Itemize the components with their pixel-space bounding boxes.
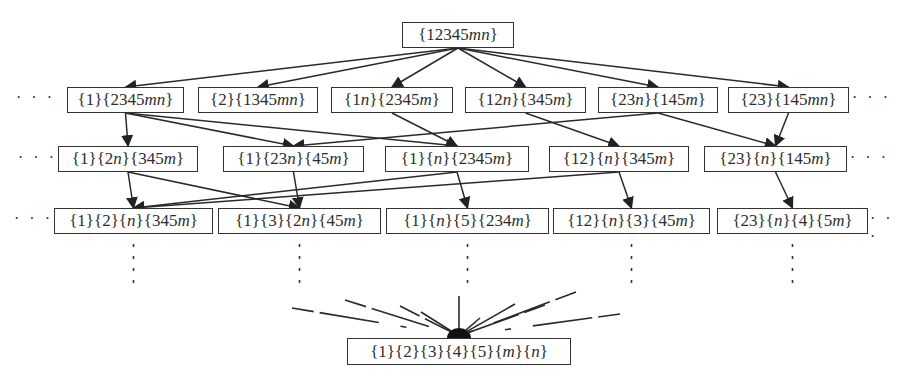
- vertical-dot: [792, 256, 794, 259]
- ellipsis-right-row2: · · ·: [850, 149, 889, 167]
- vertical-dot: [133, 268, 135, 271]
- vertical-dot: [467, 256, 469, 259]
- fan-edge: [345, 300, 457, 335]
- node-label: {1}{2345mn}: [78, 90, 174, 110]
- vertical-dot: [133, 256, 135, 259]
- edge-arrow: [619, 172, 632, 208]
- ellipsis-left-row2: · · ·: [18, 149, 57, 167]
- node-row3: {1}{2}{n}{345m}: [54, 208, 213, 234]
- vertical-dot: [631, 256, 633, 259]
- vertical-dot: [299, 256, 301, 259]
- node-label: {12345mn}: [418, 25, 498, 45]
- vertical-dot: [133, 244, 135, 247]
- ellipsis-left-row3: · · ·: [14, 210, 53, 228]
- node-row3: {23}{n}{4}{5m}: [717, 208, 868, 234]
- node-label: {1}{n}{2345m}: [401, 149, 513, 169]
- edge-arrow: [134, 172, 458, 208]
- node-row2: {1}{n}{2345m}: [385, 146, 529, 172]
- node-label: {1}{2}{n}{345m}: [69, 211, 198, 231]
- vertical-dot: [299, 244, 301, 247]
- node-label: {1n}{2345m}: [344, 90, 440, 110]
- vertical-dot: [467, 268, 469, 271]
- node-label: {12}{n}{3}{45m}: [567, 211, 696, 231]
- edge-arrow: [658, 113, 776, 146]
- node-label: {1}{2n}{345m}: [72, 149, 184, 169]
- edge-arrow: [126, 113, 458, 146]
- vertical-dot: [299, 280, 301, 283]
- node-label: {12n}{345m}: [478, 90, 574, 110]
- node-row2: {1}{23n}{45m}: [223, 146, 364, 172]
- node-label: {23}{n}{145m}: [719, 149, 831, 169]
- edge-arrow: [458, 48, 789, 87]
- node-row1: {2}{1345mn}: [198, 87, 318, 113]
- node-label: {1}{3}{2n}{45m}: [235, 211, 364, 231]
- ellipsis-right-row1: · · ·: [852, 89, 891, 107]
- node-label: {1}{2}{3}{4}{5}{m}{n}: [370, 342, 548, 362]
- node-row3: {1}{3}{2n}{45m}: [218, 208, 381, 234]
- node-label: {1}{23n}{45m}: [237, 149, 349, 169]
- node-row1: {23}{145mn}: [728, 87, 849, 113]
- vertical-dot: [467, 244, 469, 247]
- edge-arrow: [126, 113, 129, 146]
- node-row1: {1}{2345mn}: [67, 87, 184, 113]
- node-row1: {12n}{345m}: [465, 87, 586, 113]
- lattice-diagram: · · · · · · · · · · · · · · · · · · {123…: [0, 0, 906, 390]
- vertical-dot: [792, 280, 794, 283]
- node-label: {23}{n}{4}{5m}: [732, 211, 852, 231]
- node-row2: {23}{n}{145m}: [704, 146, 847, 172]
- node-bottom: {1}{2}{3}{4}{5}{m}{n}: [347, 338, 571, 365]
- node-row2: {1}{2n}{345m}: [58, 146, 198, 172]
- edge-arrow: [128, 172, 134, 208]
- vertical-dot: [467, 280, 469, 283]
- vertical-dot: [792, 268, 794, 271]
- edge-arrow: [776, 172, 793, 208]
- node-label: {12}{n}{345m}: [563, 149, 675, 169]
- vertical-dot: [792, 244, 794, 247]
- node-row1: {23n}{145m}: [598, 87, 718, 113]
- node-row2: {12}{n}{345m}: [549, 146, 689, 172]
- node-label: {1}{n}{5}{234m}: [403, 211, 532, 231]
- node-label: {2}{1345mn}: [210, 90, 306, 110]
- node-row1: {1n}{2345m}: [331, 87, 453, 113]
- node-row3: {1}{n}{5}{234m}: [386, 208, 549, 234]
- edges-layer: [0, 0, 906, 390]
- node-label: {23n}{145m}: [610, 90, 706, 110]
- node-top: {12345mn}: [402, 22, 514, 48]
- vertical-dot: [631, 244, 633, 247]
- fan-edge: [460, 304, 515, 335]
- edge-arrow: [126, 113, 294, 146]
- node-row3: {12}{n}{3}{45m}: [553, 208, 710, 234]
- vertical-dot: [631, 280, 633, 283]
- ellipsis-right-row3: · · ·: [870, 210, 906, 246]
- edge-arrow: [134, 172, 620, 208]
- fan-edge: [462, 314, 620, 336]
- edge-arrow: [457, 172, 468, 208]
- vertical-dot: [299, 268, 301, 271]
- ellipsis-left-row1: · · ·: [16, 89, 55, 107]
- node-label: {23}{145mn}: [741, 90, 837, 110]
- vertical-dot: [631, 268, 633, 271]
- edge-arrow: [776, 113, 789, 146]
- vertical-dot: [133, 280, 135, 283]
